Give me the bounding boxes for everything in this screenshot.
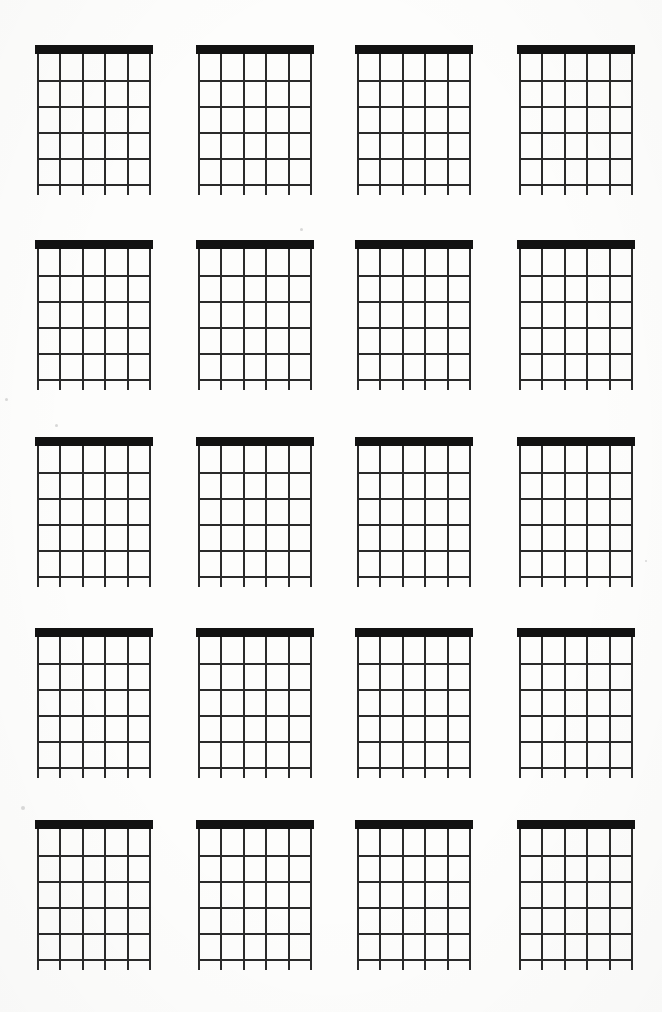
chord-diagram-r4c4[interactable]: [519, 628, 633, 778]
fretboard: [37, 446, 151, 587]
fret-line-5: [198, 379, 312, 381]
chord-diagram-r3c2[interactable]: [198, 437, 312, 587]
fret-line-3: [357, 524, 471, 526]
string-line-2: [541, 249, 543, 390]
fret-line-2: [37, 881, 151, 883]
string-line-1: [198, 54, 200, 195]
string-line-6: [631, 249, 633, 390]
string-line-2: [220, 446, 222, 587]
fret-line-3: [37, 327, 151, 329]
fret-line-4: [37, 741, 151, 743]
fretboard: [519, 637, 633, 778]
fret-line-2: [198, 498, 312, 500]
string-line-4: [424, 829, 426, 970]
fret-line-4: [519, 353, 633, 355]
fret-line-2: [519, 301, 633, 303]
chord-diagram-r1c2[interactable]: [198, 45, 312, 195]
nut-bar: [355, 820, 473, 829]
chord-diagram-r2c4[interactable]: [519, 240, 633, 390]
string-line-3: [82, 249, 84, 390]
chord-diagram-r5c4[interactable]: [519, 820, 633, 970]
string-line-2: [379, 446, 381, 587]
chord-diagram-r2c1[interactable]: [37, 240, 151, 390]
string-line-2: [59, 446, 61, 587]
chord-diagram-r4c1[interactable]: [37, 628, 151, 778]
fret-line-3: [37, 132, 151, 134]
string-line-4: [424, 54, 426, 195]
fretboard: [519, 446, 633, 587]
fret-line-1: [357, 855, 471, 857]
fret-line-2: [198, 301, 312, 303]
string-line-2: [541, 446, 543, 587]
string-line-4: [586, 54, 588, 195]
string-line-3: [402, 829, 404, 970]
string-line-2: [541, 637, 543, 778]
string-line-3: [82, 637, 84, 778]
fret-line-2: [198, 689, 312, 691]
string-line-1: [37, 54, 39, 195]
fret-line-1: [519, 472, 633, 474]
chord-diagram-r4c3[interactable]: [357, 628, 471, 778]
nut-bar: [517, 628, 635, 637]
fret-line-2: [519, 106, 633, 108]
fret-line-1: [519, 275, 633, 277]
string-line-3: [564, 637, 566, 778]
fretboard: [37, 54, 151, 195]
chord-diagram-r2c3[interactable]: [357, 240, 471, 390]
chord-diagram-r5c2[interactable]: [198, 820, 312, 970]
string-line-4: [586, 829, 588, 970]
chord-diagram-r1c4[interactable]: [519, 45, 633, 195]
string-line-6: [469, 249, 471, 390]
fret-line-5: [37, 184, 151, 186]
string-line-5: [288, 249, 290, 390]
string-line-1: [357, 446, 359, 587]
fret-line-5: [519, 184, 633, 186]
fret-line-1: [37, 663, 151, 665]
string-line-5: [127, 637, 129, 778]
nut-bar: [196, 240, 314, 249]
string-line-2: [541, 829, 543, 970]
nut-bar: [35, 45, 153, 54]
chord-diagram-r5c3[interactable]: [357, 820, 471, 970]
string-line-1: [519, 829, 521, 970]
string-line-1: [519, 446, 521, 587]
fretboard: [198, 446, 312, 587]
nut-bar: [196, 45, 314, 54]
fret-line-2: [519, 881, 633, 883]
fret-line-2: [37, 498, 151, 500]
chord-diagram-r2c2[interactable]: [198, 240, 312, 390]
fret-line-1: [37, 855, 151, 857]
chord-diagram-r3c3[interactable]: [357, 437, 471, 587]
string-line-1: [198, 829, 200, 970]
string-line-6: [469, 54, 471, 195]
fret-line-2: [37, 301, 151, 303]
scan-speckle-3: [21, 806, 25, 810]
string-line-6: [149, 249, 151, 390]
fret-line-4: [37, 933, 151, 935]
string-line-4: [265, 829, 267, 970]
string-line-4: [104, 249, 106, 390]
fret-line-4: [198, 353, 312, 355]
chord-diagram-r3c4[interactable]: [519, 437, 633, 587]
chord-diagram-r4c2[interactable]: [198, 628, 312, 778]
fret-line-3: [519, 524, 633, 526]
nut-bar: [196, 820, 314, 829]
fret-line-2: [37, 106, 151, 108]
fret-line-3: [357, 715, 471, 717]
fretboard: [198, 249, 312, 390]
chord-diagram-r3c1[interactable]: [37, 437, 151, 587]
fret-line-1: [357, 80, 471, 82]
string-line-1: [37, 249, 39, 390]
string-line-1: [519, 249, 521, 390]
string-line-5: [127, 829, 129, 970]
string-line-6: [149, 446, 151, 587]
string-line-2: [379, 249, 381, 390]
fret-line-5: [198, 184, 312, 186]
string-line-6: [149, 54, 151, 195]
chord-diagram-r5c1[interactable]: [37, 820, 151, 970]
chord-diagram-r1c1[interactable]: [37, 45, 151, 195]
chord-diagram-r1c3[interactable]: [357, 45, 471, 195]
scan-speckle-2: [55, 424, 58, 427]
string-line-6: [469, 637, 471, 778]
string-line-5: [127, 446, 129, 587]
